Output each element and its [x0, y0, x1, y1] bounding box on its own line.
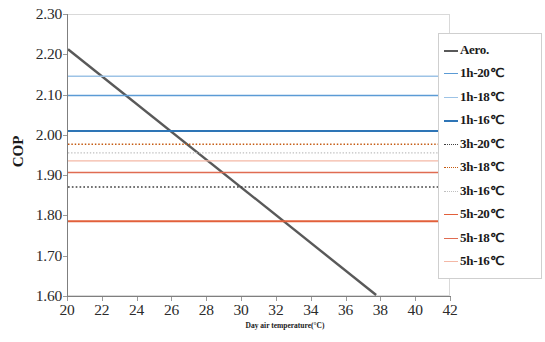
legend-item-label: 1h-16℃ [460, 112, 504, 128]
legend-swatch-icon [444, 209, 458, 219]
legend-swatch-icon [444, 92, 458, 102]
legend-swatch-icon [444, 139, 458, 149]
x-tick-mark [311, 297, 312, 301]
legend-item[interactable]: 1h-18℃ [439, 85, 541, 109]
legend-swatch-icon [444, 45, 458, 55]
x-tick-mark [67, 297, 68, 301]
y-tick-mark [63, 256, 67, 257]
y-axis-title: COP [10, 112, 27, 192]
legend-swatch-icon [444, 256, 458, 266]
chart-legend: Aero.1h-20℃1h-18℃1h-16℃3h-20℃3h-18℃3h-16… [438, 33, 542, 279]
legend-item[interactable]: 1h-20℃ [439, 62, 541, 86]
cop-vs-temperature-chart: 1.601.701.801.902.002.102.202.30 2022242… [0, 0, 545, 342]
y-tick-label: 2.30 [4, 6, 62, 22]
legend-item[interactable]: 1h-16℃ [439, 109, 541, 133]
x-tick-mark [206, 297, 207, 301]
x-tick-mark [241, 297, 242, 301]
x-tick-label: 42 [430, 302, 470, 318]
x-tick-mark [346, 297, 347, 301]
legend-item[interactable]: 5h-16℃ [439, 250, 541, 274]
y-tick-label: 1.70 [4, 248, 62, 264]
legend-swatch-icon [444, 162, 458, 172]
y-axis-line [67, 14, 68, 297]
legend-item[interactable]: Aero. [439, 38, 541, 62]
legend-item[interactable]: 3h-18℃ [439, 156, 541, 180]
y-tick-label: 1.80 [4, 207, 62, 223]
x-tick-mark [450, 297, 451, 301]
legend-item-label: 1h-18℃ [460, 89, 504, 105]
legend-swatch-icon [444, 186, 458, 196]
legend-swatch-icon [444, 115, 458, 125]
legend-item-label: 1h-20℃ [460, 65, 504, 81]
y-tick-mark [63, 95, 67, 96]
y-tick-mark [63, 54, 67, 55]
y-tick-label: 2.20 [4, 46, 62, 62]
plot-area [67, 14, 450, 296]
y-tick-mark [63, 14, 67, 15]
x-tick-mark [137, 297, 138, 301]
legend-swatch-icon [444, 68, 458, 78]
legend-item-label: 5h-20℃ [460, 206, 504, 222]
legend-item-label: 5h-16℃ [460, 253, 504, 269]
y-tick-mark [63, 175, 67, 176]
y-tick-mark [63, 135, 67, 136]
y-tick-mark [63, 215, 67, 216]
legend-item-label: 3h-20℃ [460, 136, 504, 152]
x-tick-mark [380, 297, 381, 301]
legend-item[interactable]: 5h-20℃ [439, 203, 541, 227]
series-layer [67, 14, 450, 296]
legend-item-label: 3h-18℃ [460, 159, 504, 175]
legend-item[interactable]: 5h-18℃ [439, 226, 541, 250]
legend-item[interactable]: 3h-20℃ [439, 132, 541, 156]
legend-item[interactable]: 3h-16℃ [439, 179, 541, 203]
x-axis-title: Day air temperature(°C) [185, 321, 385, 330]
x-tick-mark [171, 297, 172, 301]
legend-item-label: Aero. [460, 42, 489, 58]
legend-item-label: 5h-18℃ [460, 230, 504, 246]
x-tick-mark [276, 297, 277, 301]
legend-swatch-icon [444, 233, 458, 243]
y-tick-label: 2.10 [4, 87, 62, 103]
y-tick-mark [63, 296, 67, 297]
x-tick-mark [415, 297, 416, 301]
x-axis-line [67, 296, 451, 297]
legend-item-label: 3h-16℃ [460, 183, 504, 199]
x-tick-mark [102, 297, 103, 301]
